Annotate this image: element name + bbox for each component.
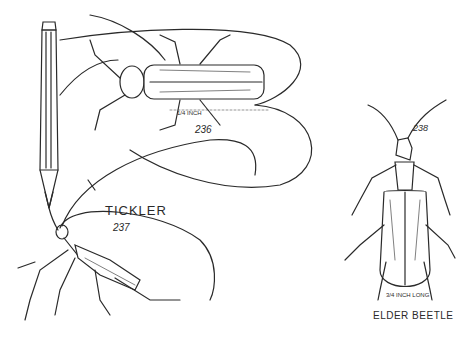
thread [49,208,58,230]
figure-number-237: 237 [113,222,130,233]
figure-number-238: 238 [413,123,428,133]
illustration-canvas [0,0,462,337]
scale-label-236: 1/4 INCH [177,110,202,116]
tickler-label: TICKLER [105,203,167,218]
scale-label-238: 3/4 INCH LONG [386,292,429,298]
pencil-drawing [40,22,58,208]
elder-beetle-238 [345,100,455,300]
antenna-loops-236 [60,15,312,187]
elder-beetle-label: ELDER BEETLE [373,310,453,321]
figure-number-236: 236 [195,124,212,135]
